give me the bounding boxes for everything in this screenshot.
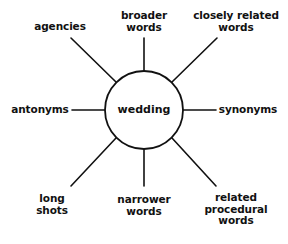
node-label-line: broader bbox=[109, 10, 179, 22]
node-label-line: agencies bbox=[25, 21, 95, 33]
node-closely-related-words: closely related words bbox=[190, 10, 282, 33]
connector-related-procedural-words bbox=[172, 138, 216, 186]
node-antonyms: antonyms bbox=[10, 104, 70, 116]
connector-closely-related-words bbox=[172, 38, 217, 82]
node-label-line: words bbox=[190, 22, 282, 34]
node-label-line: narrower bbox=[109, 194, 179, 206]
node-label-line: long bbox=[27, 193, 77, 205]
node-label-line: synonyms bbox=[217, 104, 279, 116]
connector-long-shots bbox=[71, 138, 116, 186]
node-agencies: agencies bbox=[25, 21, 95, 33]
node-label-line: related bbox=[196, 192, 276, 204]
node-long-shots: long shots bbox=[27, 193, 77, 216]
node-broader-words: broader words bbox=[109, 10, 179, 33]
node-label-line: words bbox=[196, 215, 276, 227]
node-related-procedural-words: related procedural words bbox=[196, 192, 276, 227]
node-narrower-words: narrower words bbox=[109, 194, 179, 217]
center-label: wedding bbox=[104, 103, 184, 116]
node-synonyms: synonyms bbox=[217, 104, 279, 116]
node-label-line: words bbox=[109, 22, 179, 34]
node-label-line: words bbox=[109, 206, 179, 218]
node-label-line: antonyms bbox=[10, 104, 70, 116]
node-label-line: closely related bbox=[190, 10, 282, 22]
node-label-line: shots bbox=[27, 205, 77, 217]
connector-agencies bbox=[71, 38, 116, 82]
